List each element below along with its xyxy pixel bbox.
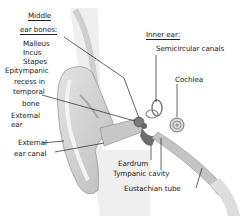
label-ear: ear — [11, 121, 22, 129]
label-external: External — [11, 112, 40, 120]
label-eardrum: Eardrum — [118, 160, 148, 168]
inner-ear-heading: Inner ear: — [146, 31, 180, 39]
label-malleus: Malleus — [23, 40, 50, 48]
middle-ear-heading-line2: ear bones: — [20, 25, 57, 35]
label-cochlea: Cochlea — [175, 76, 203, 84]
middle-ear-heading: Middle — [28, 12, 51, 20]
middle-ear-heading-2: ear bones: — [20, 26, 57, 34]
label-semicircular-canals: Semicircular canals — [156, 45, 224, 53]
label-tympanic-cavity: Tympanic cavity — [113, 170, 169, 178]
label-temporal: temporal — [13, 88, 45, 96]
middle-ear-heading-line1: Middle — [28, 11, 51, 21]
label-external-canal-1: External — [18, 139, 47, 147]
label-eustachian-tube: Eustachian tube — [124, 185, 181, 193]
semicircular-canals — [152, 100, 162, 116]
ear-anatomy-diagram: Middle ear bones: Malleus Incus Stapes E… — [0, 0, 246, 216]
label-recess-in: recess in — [14, 78, 45, 86]
label-external-canal-2: ear canal — [14, 150, 46, 158]
label-bone: bone — [22, 100, 40, 108]
label-epitympanic: Epitympanic — [5, 67, 49, 75]
label-incus: Incus — [23, 49, 41, 57]
inner-ear-heading-text: Inner ear: — [146, 30, 180, 40]
label-stapes: Stapes — [23, 58, 47, 66]
